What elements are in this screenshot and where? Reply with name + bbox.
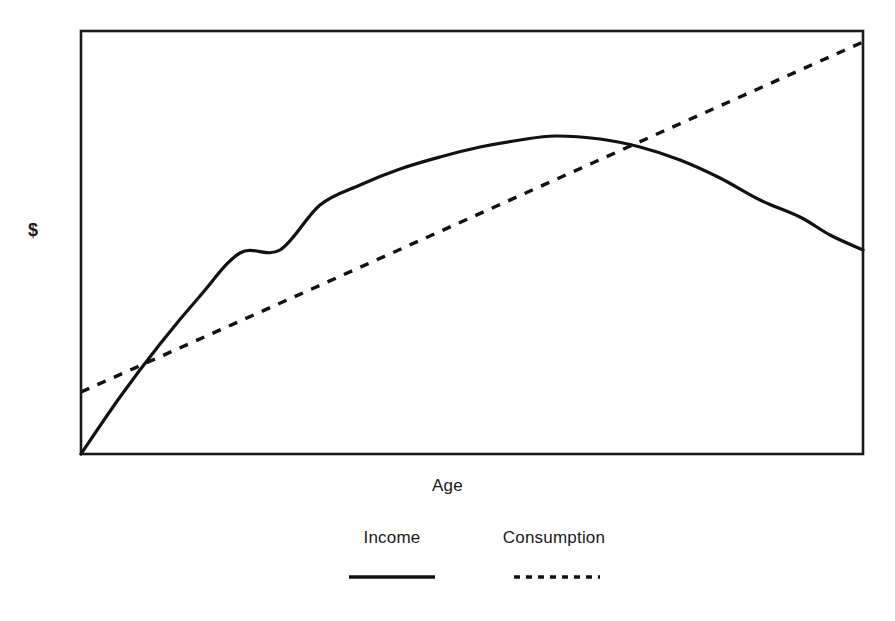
y-axis-label: $ bbox=[28, 220, 38, 241]
legend-swatch-income-solid-line bbox=[342, 574, 442, 580]
legend-label-income: Income bbox=[342, 528, 442, 548]
chart-legend: Income Consumption bbox=[330, 528, 620, 590]
series-line-consumption bbox=[81, 42, 863, 392]
series-line-income bbox=[81, 136, 863, 454]
chart-figure: $ Age Income Consumption bbox=[0, 0, 895, 621]
legend-swatch-consumption-dashed-line bbox=[488, 574, 620, 580]
legend-label-consumption: Consumption bbox=[488, 528, 620, 548]
legend-item-income: Income bbox=[342, 528, 442, 590]
x-axis-label: Age bbox=[0, 476, 895, 496]
legend-item-consumption: Consumption bbox=[488, 528, 620, 590]
